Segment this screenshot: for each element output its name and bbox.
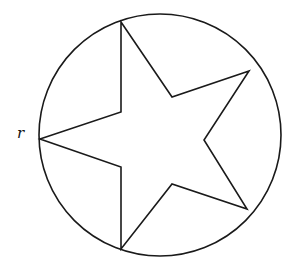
vertex-label-r: r [17, 124, 24, 142]
inscribed-star [40, 22, 249, 249]
circumscribed-circle [39, 14, 281, 256]
diagram-canvas [0, 0, 285, 270]
